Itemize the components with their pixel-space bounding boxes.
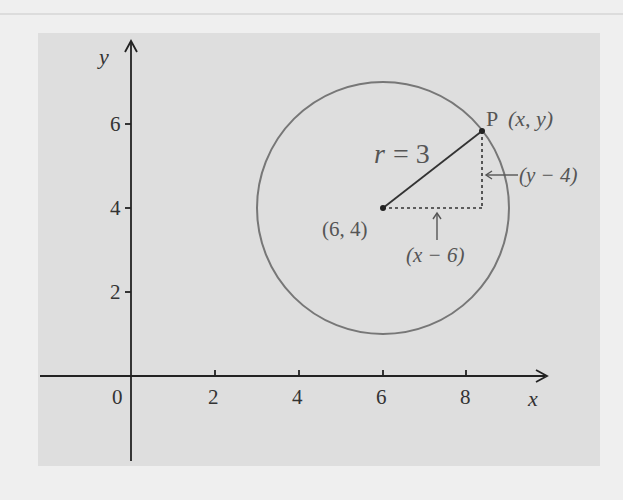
x-tick-label-8: 8 bbox=[460, 385, 471, 409]
center-label: (6, 4) bbox=[322, 217, 368, 241]
x-tick-label-6: 6 bbox=[376, 385, 387, 409]
y-tick-label-4: 4 bbox=[110, 196, 121, 220]
x-tick-label-4: 4 bbox=[292, 385, 303, 409]
point-P bbox=[479, 128, 485, 134]
center-point bbox=[380, 205, 386, 211]
point-P-label: P bbox=[486, 106, 498, 131]
x-tick-label-2: 2 bbox=[208, 385, 219, 409]
point-P-coords: (x, y) bbox=[508, 106, 553, 131]
y-axis-label: y bbox=[97, 44, 109, 69]
circle-diagram: 0 2 4 6 8 2 4 6 x y (6, 4) P (x, y) r = … bbox=[0, 0, 623, 500]
origin-label: 0 bbox=[112, 385, 123, 409]
x-axis-label: x bbox=[527, 386, 538, 411]
radius-label-value: = 3 bbox=[393, 138, 430, 169]
vertical-leg-pointer-icon bbox=[486, 171, 518, 179]
y-tick-label-2: 2 bbox=[110, 280, 121, 304]
horizontal-leg-pointer-icon bbox=[433, 213, 441, 240]
vertical-leg-label: (y − 4) bbox=[519, 163, 577, 187]
y-tick-label-6: 6 bbox=[110, 112, 121, 136]
radius-label-r: r bbox=[374, 138, 385, 169]
horizontal-leg-label: (x − 6) bbox=[406, 243, 464, 267]
